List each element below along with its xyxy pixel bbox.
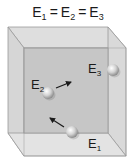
label-subscript: 3 bbox=[97, 69, 102, 78]
label-subscript: 2 bbox=[40, 85, 45, 94]
energy-box-diagram: E1=E2=E3 E1E2E3 bbox=[0, 0, 136, 168]
title-e1-base: E bbox=[32, 4, 41, 20]
title-e2-sub: 2 bbox=[70, 12, 75, 22]
title-eq-2: = bbox=[78, 4, 86, 20]
label-subscript: 1 bbox=[97, 144, 102, 153]
label-base: E bbox=[31, 77, 40, 92]
title-e3-sub: 3 bbox=[99, 12, 104, 22]
label-base: E bbox=[88, 136, 97, 151]
title-eq-1: = bbox=[50, 4, 58, 20]
title-e3-base: E bbox=[89, 4, 98, 20]
svg-text:E1=E2=E3: E1=E2=E3 bbox=[32, 4, 103, 22]
box-floor-face bbox=[8, 133, 126, 156]
container-box bbox=[8, 27, 126, 156]
title-e1-sub: 1 bbox=[42, 12, 47, 22]
sphere-icon bbox=[107, 64, 119, 76]
title-e2-base: E bbox=[61, 4, 70, 20]
title-equation: E1=E2=E3 bbox=[32, 4, 103, 22]
sphere-icon bbox=[66, 126, 78, 138]
label-base: E bbox=[88, 61, 97, 76]
